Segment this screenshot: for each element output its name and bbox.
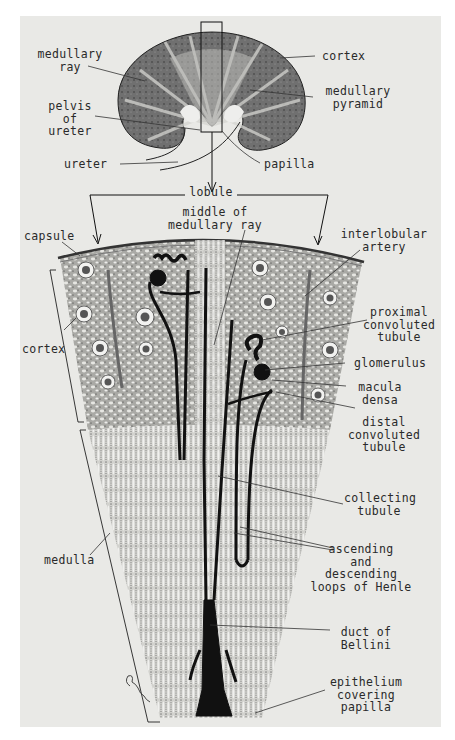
label-cortex-lobule: cortex: [22, 343, 65, 356]
label-medullary-ray: medullary ray: [30, 48, 110, 73]
label-epithelium-covering-papilla: epithelium covering papilla: [326, 676, 406, 714]
label-interlobular-artery: interlobular artery: [334, 228, 434, 253]
label-ureter: ureter: [64, 158, 107, 171]
label-pelvis-of-ureter: pelvis of ureter: [40, 100, 100, 138]
label-medulla: medulla: [44, 554, 95, 567]
label-cortex-kidney: cortex: [322, 50, 365, 63]
label-distal-convoluted-tubule: distal convoluted tubule: [344, 416, 424, 454]
label-lobule: lobule: [186, 186, 236, 199]
label-capsule: capsule: [24, 230, 75, 243]
label-loops-of-henle: ascending and descending loops of Henle: [306, 543, 416, 593]
label-middle-of-medullary-ray: middle of medullary ray: [160, 206, 270, 231]
label-glomerulus: glomerulus: [354, 357, 426, 370]
label-duct-of-bellini: duct of Bellini: [336, 626, 396, 651]
label-macula-densa: macula densa: [350, 381, 410, 406]
label-medullary-pyramid: medullary pyramid: [318, 85, 398, 110]
label-papilla: papilla: [264, 158, 315, 171]
lobule-section: [50, 240, 364, 722]
label-collecting-tubule: collecting tubule: [344, 492, 414, 517]
label-proximal-convoluted-tubule: proximal convoluted tubule: [356, 306, 442, 344]
